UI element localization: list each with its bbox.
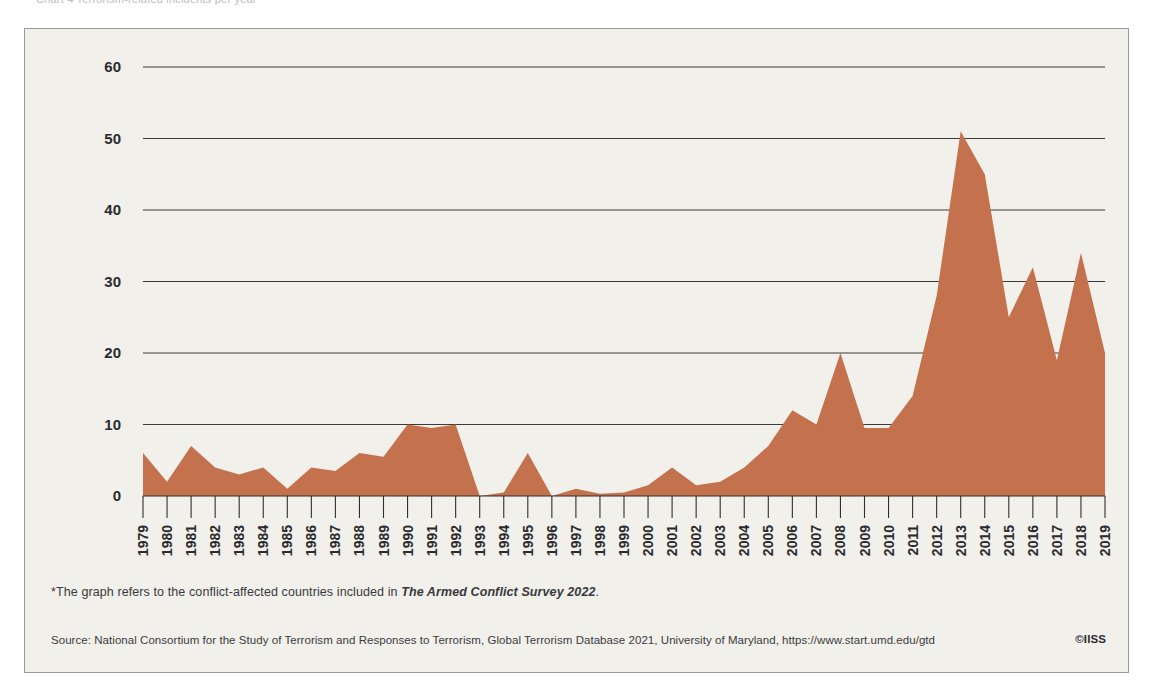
x-tick-label-2010: 2010 [881, 525, 897, 556]
x-tick-label-2011: 2011 [905, 525, 921, 556]
x-tick-label-1989: 1989 [376, 525, 392, 556]
x-tick-label-1999: 1999 [616, 525, 632, 556]
x-tick-label-1986: 1986 [303, 525, 319, 556]
x-tick-label-2002: 2002 [688, 525, 704, 556]
y-tick-label-20: 20 [104, 344, 121, 361]
x-tick-label-2014: 2014 [977, 525, 993, 556]
x-tick-label-2008: 2008 [832, 525, 848, 556]
x-tick-label-2004: 2004 [736, 525, 752, 556]
x-tick-label-2013: 2013 [953, 525, 969, 556]
x-tick-label-1979: 1979 [135, 525, 151, 556]
x-tick-label-2018: 2018 [1073, 525, 1089, 556]
y-tick-label-60: 60 [104, 58, 121, 75]
y-tick-label-30: 30 [104, 273, 121, 290]
x-tick-label-1981: 1981 [183, 525, 199, 556]
x-tick-label-1985: 1985 [279, 525, 295, 556]
iiss-credit: ©IISS [1075, 633, 1106, 645]
x-tick-label-1998: 1998 [592, 525, 608, 556]
x-tick-label-1982: 1982 [207, 525, 223, 556]
area-series [143, 131, 1105, 496]
y-tick-label-0: 0 [113, 487, 121, 504]
x-tick-label-1992: 1992 [448, 525, 464, 556]
x-tick-label-2019: 2019 [1097, 525, 1113, 556]
footnote-prefix: *The graph refers to the conflict-affect… [51, 585, 401, 599]
x-tick-label-1980: 1980 [159, 525, 175, 556]
chart-panel: 0102030405060 19791980198119821983198419… [24, 28, 1129, 673]
cut-off-title-text: Chart 4 Terrorism-related incidents per … [36, 0, 261, 5]
y-tick-label-10: 10 [104, 416, 121, 433]
x-tick-label-1993: 1993 [472, 525, 488, 556]
x-tick-label-2005: 2005 [760, 525, 776, 556]
y-tick-label-50: 50 [104, 130, 121, 147]
x-tick-label-2007: 2007 [808, 525, 824, 556]
data-area-group [143, 131, 1105, 496]
x-tick-label-1997: 1997 [568, 525, 584, 556]
x-axis-tick-labels: 1979198019811982198319841985198619871988… [135, 496, 1113, 556]
x-tick-label-1987: 1987 [327, 525, 343, 556]
x-tick-label-2003: 2003 [712, 525, 728, 556]
cut-off-title-strip: Chart 4 Terrorism-related incidents per … [0, 0, 1153, 10]
x-tick-label-1995: 1995 [520, 525, 536, 556]
x-tick-label-2015: 2015 [1001, 525, 1017, 556]
x-tick-label-1983: 1983 [231, 525, 247, 556]
x-tick-label-1991: 1991 [424, 525, 440, 556]
x-tick-label-2006: 2006 [784, 525, 800, 556]
x-tick-label-1984: 1984 [255, 525, 271, 556]
x-tick-label-2009: 2009 [857, 525, 873, 556]
x-tick-label-2016: 2016 [1025, 525, 1041, 556]
x-tick-label-2000: 2000 [640, 525, 656, 556]
x-tick-label-1990: 1990 [400, 525, 416, 556]
y-tick-label-40: 40 [104, 201, 121, 218]
footnote-suffix: . [595, 585, 599, 599]
area-chart-svg: 0102030405060 19791980198119821983198419… [25, 29, 1130, 674]
x-tick-label-1988: 1988 [351, 525, 367, 556]
x-tick-label-1996: 1996 [544, 525, 560, 556]
x-tick-label-2012: 2012 [929, 525, 945, 556]
x-tick-label-2001: 2001 [664, 525, 680, 556]
y-axis-tick-labels: 0102030405060 [104, 58, 121, 504]
x-tick-label-2017: 2017 [1049, 525, 1065, 556]
x-tick-label-1994: 1994 [496, 525, 512, 556]
footnote-italic-title: The Armed Conflict Survey 2022 [401, 585, 595, 599]
chart-footnote: *The graph refers to the conflict-affect… [51, 585, 599, 599]
source-line: Source: National Consortium for the Stud… [51, 634, 935, 646]
